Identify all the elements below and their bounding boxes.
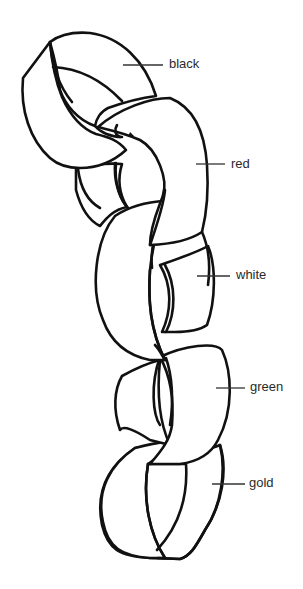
label-black: black — [169, 57, 199, 70]
label-white: white — [236, 268, 266, 281]
label-red: red — [231, 157, 250, 170]
paper-chain-diagram — [0, 0, 303, 589]
link-green — [115, 346, 229, 464]
label-gold: gold — [249, 476, 274, 489]
label-green: green — [250, 380, 283, 393]
